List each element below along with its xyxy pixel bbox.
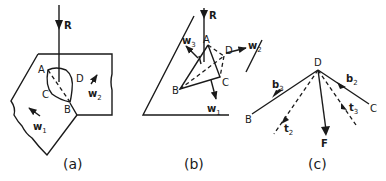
- contact-region-outline: [47, 68, 72, 102]
- label-r: R: [209, 10, 217, 21]
- line-f: [318, 70, 326, 130]
- label-d: D: [76, 73, 84, 84]
- label-c: C: [42, 89, 49, 100]
- panel-b: R A D C B w3 w2 w1 (b): [143, 8, 262, 172]
- panel-c: b3 B b2 C t2 t3 F D (c): [245, 57, 377, 172]
- vector-w2: w2: [88, 88, 102, 102]
- label-d: D: [314, 57, 322, 68]
- label-c: C: [222, 77, 229, 88]
- w1-arrow-icon: [29, 108, 40, 116]
- line-db: [252, 70, 318, 114]
- label-r: R: [64, 20, 72, 31]
- caption-a: (a): [63, 156, 83, 172]
- label-d: D: [225, 45, 233, 56]
- label-b: B: [172, 85, 179, 96]
- w2-arrow-icon: [91, 75, 97, 84]
- edge-bd: [180, 56, 224, 89]
- line-t2: [274, 70, 318, 134]
- label-a: A: [38, 64, 45, 75]
- caption-c: (c): [308, 156, 327, 172]
- force-r-arrowhead-icon: [200, 10, 208, 19]
- label-f: F: [321, 138, 328, 149]
- label-b: B: [245, 114, 252, 125]
- tetra-solid-edges: [180, 45, 220, 89]
- label-a: A: [203, 34, 210, 45]
- caption-b: (b): [184, 156, 204, 172]
- vector-w2: w2: [248, 40, 262, 54]
- vector-t3: t3: [349, 102, 358, 116]
- f-arrowhead-icon: [321, 126, 330, 136]
- vector-w1: w1: [33, 121, 47, 135]
- label-c: C: [370, 103, 377, 114]
- w1-arrow-icon: [211, 80, 216, 99]
- panel-a: R A D C B w1 w2 (a): [11, 5, 112, 172]
- right-face-outline: [38, 54, 112, 115]
- force-r-arrowhead-icon: [55, 20, 63, 30]
- label-b: B: [64, 104, 71, 115]
- figure-canvas: R A D C B w1 w2 (a) R A D C B w3: [0, 0, 386, 181]
- vector-t2: t2: [284, 123, 293, 137]
- vector-b2: b2: [346, 73, 358, 87]
- vector-w3: w3: [182, 35, 196, 49]
- t3-arrowhead-icon: [341, 103, 347, 110]
